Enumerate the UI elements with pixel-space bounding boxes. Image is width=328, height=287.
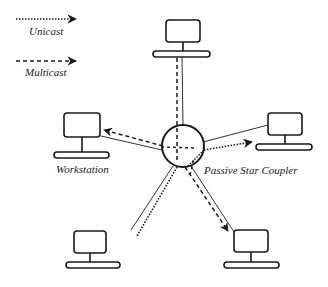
monitor-icon [268,113,302,135]
workstation-top [153,20,210,57]
monitor-icon [166,20,200,42]
keyboard-icon [54,152,109,158]
monitor-icon [64,113,100,137]
unicast-legend-label: Unicast [29,25,63,37]
keyboard-icon [153,51,210,57]
workstation-left [54,113,109,158]
monitor-icon [234,230,268,252]
multicast-legend-label: Multicast [25,66,67,78]
star-network-diagram [0,0,328,287]
link-top [177,57,183,160]
keyboard-icon [256,144,312,150]
coupler-label: Passive Star Coupler [204,164,298,176]
link-bottom-left [131,166,177,236]
workstation-label: Workstation [56,163,109,175]
keyboard-icon [224,262,279,268]
monitor-icon [74,231,106,253]
workstation-bottom-left [66,231,120,268]
passive-star-coupler [162,125,204,167]
link-left [101,130,194,175]
workstation-right [256,113,312,150]
workstation-bottom-right [224,230,279,268]
keyboard-icon [66,262,120,268]
